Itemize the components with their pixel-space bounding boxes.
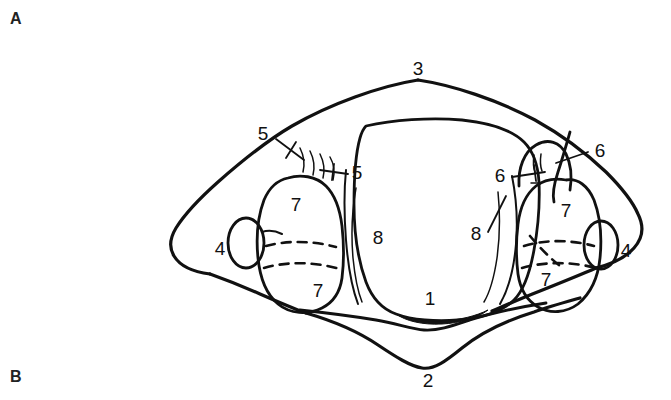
leader-6-inner-right [512, 172, 545, 177]
label-6-inner-right: 6 [495, 165, 506, 186]
leader-5-outer-left [276, 139, 304, 160]
right-vertebral-artery-groove-inner [484, 192, 499, 302]
atlas-vertebra-diagram: 3 5 5 6 6 7 7 7 7 8 8 4 4 1 2 [0, 0, 671, 400]
label-2-spinous-process: 2 [423, 370, 434, 391]
label-4-left-transverse-foramen: 4 [215, 238, 226, 259]
label-7-left-inferior-facet: 7 [313, 280, 324, 301]
figure-root: A B [0, 0, 671, 400]
leader-6-outer-right [556, 152, 588, 163]
label-5-outer-left: 5 [258, 123, 269, 144]
posterior-arch-inner-border [300, 303, 546, 330]
ligament-hatch-3 [320, 154, 324, 178]
label-8-left: 8 [373, 227, 384, 248]
label-3-anterior-arch: 3 [413, 58, 424, 79]
right-small-arch-detail [519, 142, 571, 190]
label-8-right: 8 [471, 223, 482, 244]
label-7-right-superior-facet: 7 [561, 200, 572, 221]
label-1-posterior-tubercle: 1 [425, 288, 436, 309]
vertebral-foramen-outline [354, 119, 539, 321]
label-7-right-inferior-facet: 7 [541, 269, 552, 290]
ligament-hatch-2 [310, 151, 314, 175]
left-lateral-mass-inner-edge [262, 231, 282, 234]
leader-5-outer-left-tick [286, 142, 296, 158]
right-arch-tick-2 [540, 154, 542, 171]
label-6-outer-right: 6 [595, 140, 606, 161]
right-vertebral-artery-groove-outer [500, 176, 517, 304]
label-7-left-superior-facet: 7 [291, 194, 302, 215]
leader-8-right [488, 196, 506, 232]
left-facet-separation-lower [264, 263, 340, 269]
label-5-inner-left: 5 [352, 162, 363, 183]
outer-contour-left-transverse-tip [210, 274, 306, 313]
label-4-right-transverse-foramen: 4 [621, 240, 632, 261]
left-facet-separation-upper [266, 242, 336, 247]
left-transverse-foramen [228, 218, 264, 268]
